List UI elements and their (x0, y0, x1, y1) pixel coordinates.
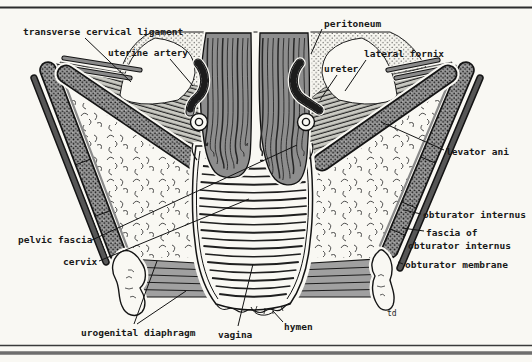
label-urogenital-diaphragm: urogenital diaphragm (81, 327, 196, 338)
label-obturator-membrane: obturator membrane (405, 259, 508, 270)
vessel-left (191, 114, 208, 131)
label-levator-ani: levator ani (446, 146, 509, 157)
label-fascia-of-line1: fascia of (426, 227, 478, 238)
label-ureter: ureter (324, 63, 359, 74)
anatomy-figure: transverse cervical ligament uterine art… (0, 0, 532, 362)
label-cervix: cervix (63, 256, 98, 267)
label-peritoneum: peritoneum (324, 18, 381, 29)
label-obturator-internus: obturator internus (423, 209, 526, 220)
label-pelvic-fascia: pelvic fascia (18, 234, 93, 245)
anatomy-diagram-page: transverse cervical ligament uterine art… (0, 0, 532, 362)
label-lateral-fornix: lateral fornix (364, 48, 444, 59)
label-fascia-of-line2: obturator internus (408, 240, 511, 251)
vessel-right (298, 114, 315, 131)
label-transverse-cervical-ligament: transverse cervical ligament (23, 26, 183, 37)
label-artist-initials: td (387, 309, 397, 318)
label-uterine-artery: uterine artery (108, 47, 188, 58)
bone-right (372, 250, 394, 310)
label-hymen: hymen (284, 321, 313, 332)
label-vagina: vagina (218, 329, 253, 340)
